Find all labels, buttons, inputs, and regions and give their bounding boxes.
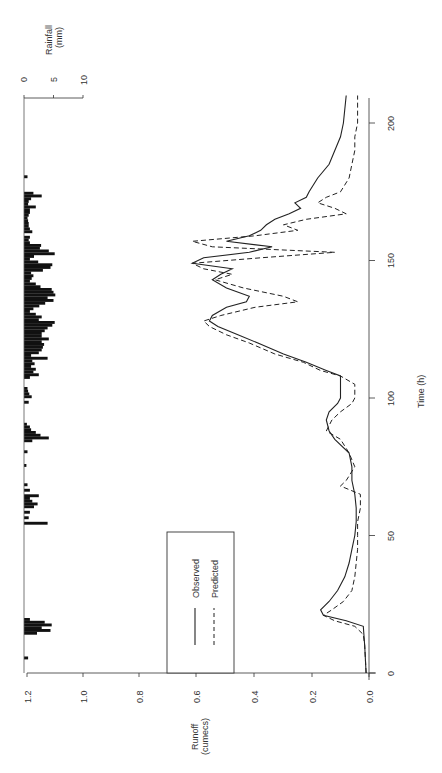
rainfall-bar xyxy=(24,214,29,217)
rainfall-bar xyxy=(24,244,41,247)
rainfall-bar xyxy=(24,505,34,508)
rainfall-bar xyxy=(24,657,28,660)
rainfall-bar xyxy=(24,294,55,297)
rainfall-bar xyxy=(24,390,28,393)
time-axis xyxy=(369,98,375,680)
rainfall-bar xyxy=(24,618,30,621)
rainfall-bar xyxy=(24,255,34,258)
rainfall-bar xyxy=(24,632,37,635)
rainfall-bar xyxy=(24,428,31,431)
rainfall-bar xyxy=(24,211,30,214)
rainfall-bar xyxy=(24,272,31,275)
rainfall-bar xyxy=(24,321,55,324)
rainfall-bar xyxy=(24,426,30,429)
rainfall-bar xyxy=(24,313,36,316)
rainfall-bar xyxy=(24,200,29,203)
rainfall-bar xyxy=(24,269,43,272)
rainfall-bar xyxy=(24,494,39,497)
rainfall-bar xyxy=(24,624,52,627)
rainfall-bar xyxy=(24,393,29,396)
rainfall-bar xyxy=(24,434,41,437)
legend-observed-label: Observed xyxy=(191,559,201,598)
rainfall-bar xyxy=(24,360,32,363)
time-tick-200: 200 xyxy=(386,116,396,131)
rainfall-bar xyxy=(24,283,36,286)
rainfall-bar xyxy=(24,299,54,302)
rainfall-bar xyxy=(24,222,29,225)
rainfall-bar xyxy=(24,239,29,242)
rainfall-bar xyxy=(24,357,48,360)
legend: Observed Predicted xyxy=(167,532,234,673)
rainfall-bar xyxy=(24,236,30,239)
rainfall-bar xyxy=(24,219,28,222)
rainfall-bar xyxy=(24,261,38,264)
time-tick-100: 100 xyxy=(386,391,396,406)
rainfall-bar xyxy=(24,450,28,453)
rainfall-bar xyxy=(24,346,43,349)
rain-axis-label-line1: Rainfall xyxy=(44,25,54,55)
rainfall-bar xyxy=(24,329,45,332)
rainfall-bar xyxy=(24,195,42,198)
rainfall-bar xyxy=(24,296,48,299)
rainfall-bar xyxy=(24,362,35,365)
rainfall-bar xyxy=(24,230,32,233)
rainfall-bar xyxy=(24,305,39,308)
rainfall-bar xyxy=(24,368,36,371)
rainfall-bar xyxy=(24,217,28,220)
rainfall-bar xyxy=(24,522,48,525)
rainfall-bar xyxy=(24,310,30,313)
rainfall-bar xyxy=(24,203,28,206)
rainfall-bar xyxy=(24,351,39,354)
rainfall-bar xyxy=(24,175,28,178)
rainfall-bars xyxy=(24,175,55,659)
runoff-tick-0.4: 0.4 xyxy=(250,690,260,703)
runoff-axis-label-line2: (cumecs) xyxy=(200,718,210,755)
rainfall-bar xyxy=(24,288,52,291)
rainfall-bar xyxy=(24,500,32,503)
rainfall-bar xyxy=(24,483,28,486)
rainfall-bar xyxy=(24,285,41,288)
rainfall-bar xyxy=(24,327,48,330)
rainfall-bar xyxy=(24,371,33,374)
rainfall-bar xyxy=(24,307,33,310)
legend-predicted-label: Predicted xyxy=(210,560,220,598)
runoff-tick-0.6: 0.6 xyxy=(192,690,202,703)
runoff-tick-0.2: 0.2 xyxy=(308,690,318,703)
rainfall-bar xyxy=(24,437,49,440)
rainfall-bar xyxy=(24,241,30,244)
rainfall-bar xyxy=(24,387,28,390)
rainfall-bar xyxy=(24,318,39,321)
rainfall-bar xyxy=(24,252,55,255)
runoff-axis xyxy=(27,673,376,677)
rainfall-bar xyxy=(24,629,51,632)
rainfall-bar xyxy=(24,277,32,280)
rainfall-runoff-chart: 0 5 10 Rainfall (mm) 1.2 1.0 0.8 0.6 0.4… xyxy=(0,0,442,773)
rainfall-axis xyxy=(24,95,83,98)
rainfall-bar xyxy=(24,332,42,335)
rainfall-bar xyxy=(24,250,49,253)
rainfall-bar xyxy=(24,247,40,250)
rainfall-bar xyxy=(24,280,30,283)
rainfall-bar xyxy=(24,316,42,319)
rainfall-bar xyxy=(24,225,29,228)
rainfall-bar xyxy=(24,263,52,266)
rainfall-bar xyxy=(24,206,36,209)
rain-tick-5: 5 xyxy=(49,77,59,82)
rainfall-bar xyxy=(24,511,30,514)
rainfall-bar xyxy=(24,302,45,305)
rainfall-bar xyxy=(24,489,30,492)
rainfall-bar xyxy=(24,376,30,379)
rainfall-bar xyxy=(24,365,31,368)
rainfall-bar xyxy=(24,401,29,404)
rainfall-bar xyxy=(24,228,30,231)
rainfall-bar xyxy=(24,197,31,200)
runoff-tick-1.2: 1.2 xyxy=(23,690,33,703)
rainfall-bar xyxy=(24,340,42,343)
rainfall-bar xyxy=(24,439,32,442)
rainfall-bar xyxy=(24,338,49,341)
rain-tick-10: 10 xyxy=(79,75,89,85)
rainfall-bar xyxy=(24,503,38,506)
rainfall-bar xyxy=(24,354,31,357)
rainfall-bar xyxy=(24,208,30,211)
rainfall-bar xyxy=(24,274,33,277)
